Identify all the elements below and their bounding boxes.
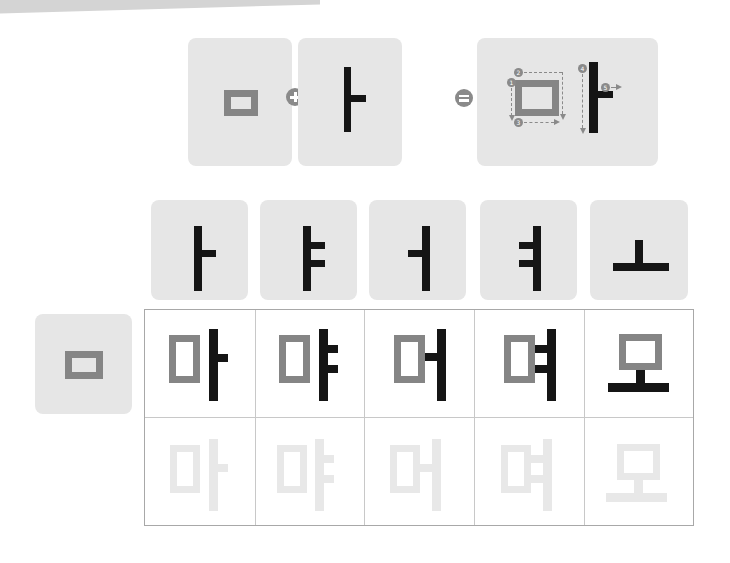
stem bbox=[422, 226, 430, 291]
mieum bbox=[394, 335, 425, 383]
syllable-cell-ma: 마 bbox=[145, 310, 255, 417]
branch bbox=[519, 242, 533, 249]
mieum bbox=[277, 445, 307, 493]
tracing-cell-ma[interactable]: 마 bbox=[145, 418, 255, 526]
arrow-down-icon bbox=[580, 128, 586, 134]
tracing-cell-myeo[interactable]: 며 bbox=[474, 418, 584, 526]
branch bbox=[218, 354, 228, 362]
stem bbox=[315, 439, 324, 511]
mieum bbox=[390, 445, 420, 493]
branch bbox=[328, 345, 338, 353]
mieum-glyph bbox=[65, 351, 103, 379]
stem bbox=[635, 240, 643, 264]
base bbox=[606, 493, 667, 502]
arrow-right-icon bbox=[554, 119, 560, 125]
branch bbox=[202, 250, 216, 257]
branch bbox=[328, 365, 338, 373]
vowel-a-branch bbox=[351, 95, 366, 102]
stroke-guide-2b bbox=[562, 72, 563, 114]
syllable-cell-meo: 머 bbox=[364, 310, 474, 417]
vowel-a-stem bbox=[589, 62, 598, 133]
vowel-header-ya: ㅑ bbox=[260, 200, 357, 300]
stroke-guide-3 bbox=[524, 122, 554, 123]
branch bbox=[531, 475, 543, 483]
stroke-guide-1 bbox=[511, 88, 512, 116]
mieum-glyph bbox=[515, 80, 559, 116]
syllable-cell-mya: 먀 bbox=[255, 310, 364, 417]
mieum bbox=[279, 335, 310, 383]
branch bbox=[531, 455, 543, 463]
stem bbox=[432, 439, 441, 511]
tracing-cell-mo[interactable]: 모 bbox=[584, 418, 694, 526]
stem bbox=[547, 329, 556, 401]
mieum-glyph bbox=[224, 90, 258, 116]
tracing-cell-mya[interactable]: 먀 bbox=[255, 418, 364, 526]
vowel-a-stem bbox=[344, 67, 351, 132]
branch bbox=[311, 242, 325, 249]
tracing-cell-meo[interactable]: 머 bbox=[364, 418, 474, 526]
arrow-right-icon bbox=[616, 84, 622, 90]
base bbox=[613, 263, 669, 271]
vowel-a-branch bbox=[598, 91, 613, 98]
branch bbox=[535, 365, 547, 373]
stroke-guide-2 bbox=[524, 72, 562, 73]
mieum bbox=[169, 335, 200, 383]
stroke-number-4: 4 bbox=[578, 64, 587, 73]
stroke-number-5: 5 bbox=[601, 83, 610, 92]
stem bbox=[209, 329, 218, 401]
mieum bbox=[617, 444, 660, 480]
stem bbox=[636, 370, 645, 384]
result-card-ma-stroke-order: 마 1 2 3 4 5 bbox=[477, 38, 658, 166]
vowel-header-a: ㅏ bbox=[151, 200, 248, 300]
branch bbox=[324, 475, 334, 483]
vowel-header-yeo: ㅕ bbox=[480, 200, 577, 300]
stem bbox=[543, 439, 552, 511]
stroke-number-3: 3 bbox=[514, 118, 523, 127]
branch bbox=[408, 250, 422, 257]
stroke-guide-4 bbox=[582, 74, 583, 128]
stem bbox=[194, 226, 202, 291]
row-consonant-card-mieum: ㅁ bbox=[35, 314, 132, 414]
consonant-card-mieum: ㅁ bbox=[188, 38, 292, 166]
stem bbox=[634, 480, 643, 494]
stem bbox=[533, 226, 541, 291]
mieum bbox=[504, 335, 535, 383]
branch bbox=[324, 455, 334, 463]
stem bbox=[319, 329, 328, 401]
mieum bbox=[501, 445, 531, 493]
equals-icon: = bbox=[455, 89, 473, 107]
vowel-header-eo: ㅓ bbox=[369, 200, 466, 300]
branch bbox=[535, 345, 547, 353]
stem bbox=[437, 329, 446, 401]
header-banner bbox=[0, 0, 320, 14]
stroke-number-2: 2 bbox=[514, 68, 523, 77]
branch bbox=[218, 464, 228, 472]
base bbox=[608, 383, 669, 392]
mieum bbox=[170, 445, 200, 493]
vowel-card-a: ㅏ bbox=[298, 38, 402, 166]
branch bbox=[519, 260, 533, 267]
branch bbox=[425, 353, 437, 361]
branch bbox=[311, 260, 325, 267]
arrow-down-icon bbox=[560, 114, 566, 120]
stroke-number-1: 1 bbox=[507, 78, 516, 87]
syllable-cell-mo: 모 bbox=[584, 310, 694, 417]
stem bbox=[209, 439, 218, 511]
vowel-header-o: ㅗ bbox=[590, 200, 688, 300]
stem bbox=[303, 226, 311, 291]
mieum bbox=[619, 334, 662, 370]
syllable-practice-grid: 마 먀 머 며 모 마 먀 bbox=[144, 309, 694, 526]
syllable-cell-myeo: 며 bbox=[474, 310, 584, 417]
branch bbox=[420, 464, 432, 472]
